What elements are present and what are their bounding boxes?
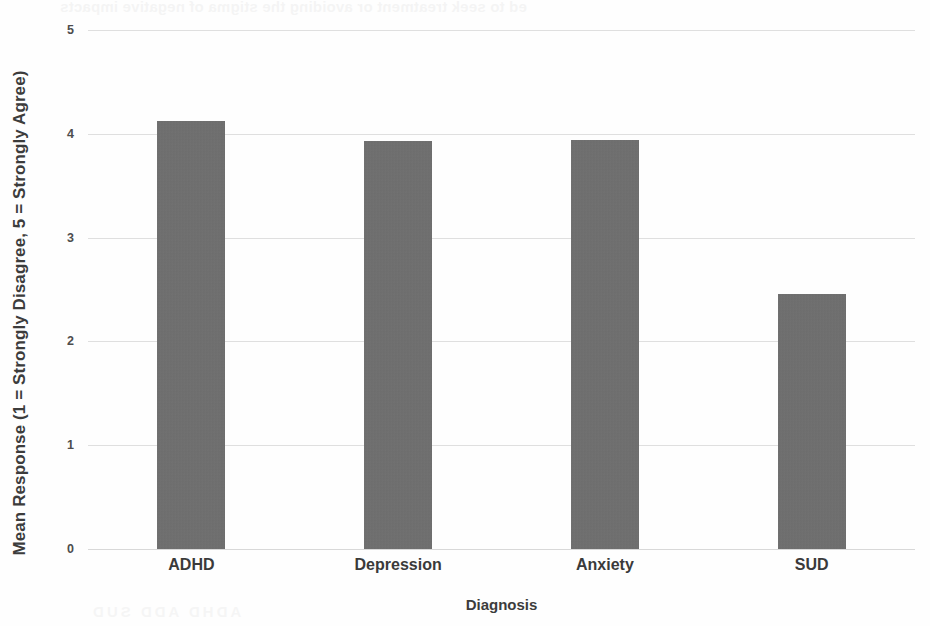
y-axis-tick-labels: 012345 [0,30,84,549]
x-label-sud: SUD [795,556,829,574]
bar-chart-figure: ed to seek treatment or avoiding the sti… [0,0,930,626]
x-label-adhd: ADHD [168,556,214,574]
scan-bleedthrough-top: ed to seek treatment or avoiding the sti… [60,0,527,15]
x-axis-title: Diagnosis [88,596,915,613]
x-label-depression: Depression [355,556,442,574]
plot-area [88,30,915,549]
y-tick-label: 1 [67,438,74,452]
x-axis-category-labels: ADHDDepressionAnxietySUD [88,556,915,590]
bar-sud [778,294,846,549]
y-tick-label: 0 [67,542,74,556]
bar-anxiety [571,140,639,549]
bar-adhd [157,121,225,549]
gridline-5 [88,30,915,31]
y-tick-label: 2 [67,334,74,348]
bar-depression [364,141,432,549]
x-label-anxiety: Anxiety [576,556,634,574]
y-tick-label: 5 [67,23,74,37]
gridline-0 [88,549,915,550]
y-tick-label: 3 [67,231,74,245]
y-tick-label: 4 [67,127,74,141]
